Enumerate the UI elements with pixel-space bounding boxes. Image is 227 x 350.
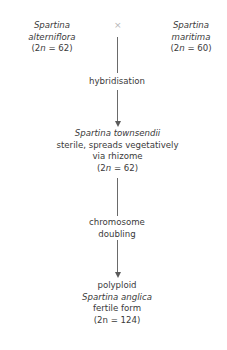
- parent-right: Spartina maritima (2n = 60): [161, 20, 221, 55]
- result-line1: polyploid: [57, 280, 177, 292]
- result-name: Spartina anglica: [57, 292, 177, 304]
- parent-right-genus: Spartina: [161, 20, 221, 32]
- result-chromosome: (2n = 124): [57, 315, 177, 327]
- connector-line-1a: [117, 37, 118, 73]
- step-hybridisation-label: hybridisation: [77, 76, 157, 88]
- connector-line-2b: [117, 240, 118, 274]
- step-doubling-line2: doubling: [77, 229, 157, 241]
- hybrid-description-1: sterile, spreads vegetatively: [40, 140, 195, 152]
- hybrid-description-2: via rhizome: [40, 151, 195, 163]
- hybrid-block: Spartina townsendii sterile, spreads veg…: [40, 128, 195, 174]
- parent-right-chromosome: (2n = 60): [161, 43, 221, 55]
- parent-right-species: maritima: [161, 32, 221, 44]
- step-doubling-line1: chromosome: [77, 217, 157, 229]
- result-line3: fertile form: [57, 303, 177, 315]
- cross-icon: ×: [114, 20, 122, 30]
- arrow-down-icon: [115, 121, 121, 127]
- result-block: polyploid Spartina anglica fertile form …: [57, 280, 177, 326]
- connector-line-1b: [117, 90, 118, 123]
- arrow-down-icon: [115, 272, 121, 278]
- hybrid-chromosome: (2n = 62): [40, 163, 195, 175]
- connector-line-2a: [117, 178, 118, 216]
- parent-left: Spartina alterniflora (2n = 62): [22, 20, 82, 55]
- parent-left-genus: Spartina: [22, 20, 82, 32]
- parent-left-species: alterniflora: [22, 32, 82, 44]
- parent-left-chromosome: (2n = 62): [22, 43, 82, 55]
- hybrid-name: Spartina townsendii: [40, 128, 195, 140]
- step-doubling-label: chromosome doubling: [77, 217, 157, 240]
